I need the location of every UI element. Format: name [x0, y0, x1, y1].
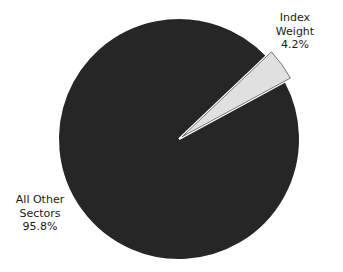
label-all-other-sectors-value: 95.8%	[2, 220, 78, 234]
slice-all-other-sectors	[58, 18, 300, 260]
label-index-weight-value: 4.2%	[262, 38, 328, 52]
label-all-other-sectors: All Other Sectors 95.8%	[2, 193, 78, 234]
label-index-weight-line1: Index	[262, 11, 328, 25]
label-index-weight: Index Weight 4.2%	[262, 11, 328, 52]
label-all-other-sectors-line2: Sectors	[2, 207, 78, 221]
label-index-weight-line2: Weight	[262, 25, 328, 39]
label-all-other-sectors-line1: All Other	[2, 193, 78, 207]
